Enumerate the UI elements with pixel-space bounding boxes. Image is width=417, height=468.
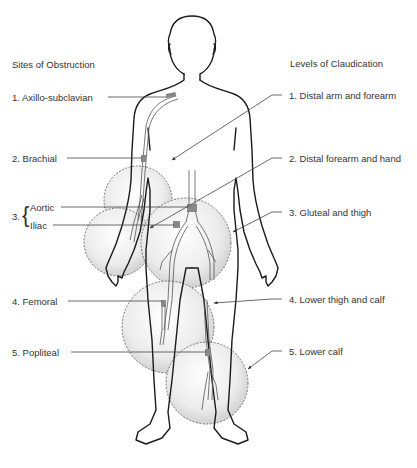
left-column-heading: Sites of Obstruction — [12, 59, 95, 70]
body-figure — [0, 0, 417, 468]
site-brachial: 2. Brachial — [12, 153, 57, 164]
obstruction-aortic — [187, 204, 197, 212]
claudication-zones — [84, 166, 248, 424]
obstruction-popliteal — [205, 349, 211, 356]
site-femoral: 4. Femoral — [12, 296, 57, 307]
head — [169, 16, 216, 80]
right-column-heading: Levels of Claudication — [290, 58, 383, 69]
level-lower-calf: 5. Lower calf — [289, 346, 343, 357]
level-gluteal-thigh: 3. Gluteal and thigh — [289, 207, 371, 218]
level-distal-forearm-hand: 2. Distal forearm and hand — [289, 153, 401, 164]
brace-icon: { — [22, 204, 29, 226]
site-3-number: 3. — [12, 211, 20, 222]
obstruction-brachial — [141, 155, 146, 162]
claudication-diagram: Sites of Obstruction 1. Axillo-subclavia… — [0, 0, 417, 468]
obstruction-iliac — [173, 221, 180, 228]
site-axillo-subclavian: 1. Axillo-subclavian — [12, 92, 93, 103]
level-distal-arm-forearm: 1. Distal arm and forearm — [289, 90, 396, 101]
site-popliteal: 5. Popliteal — [12, 347, 59, 358]
site-iliac: Iliac — [30, 220, 47, 231]
zone-gluteal-thigh — [141, 198, 231, 288]
level-lower-thigh-calf: 4. Lower thigh and calf — [289, 294, 385, 305]
site-aortic: Aortic — [30, 202, 54, 213]
